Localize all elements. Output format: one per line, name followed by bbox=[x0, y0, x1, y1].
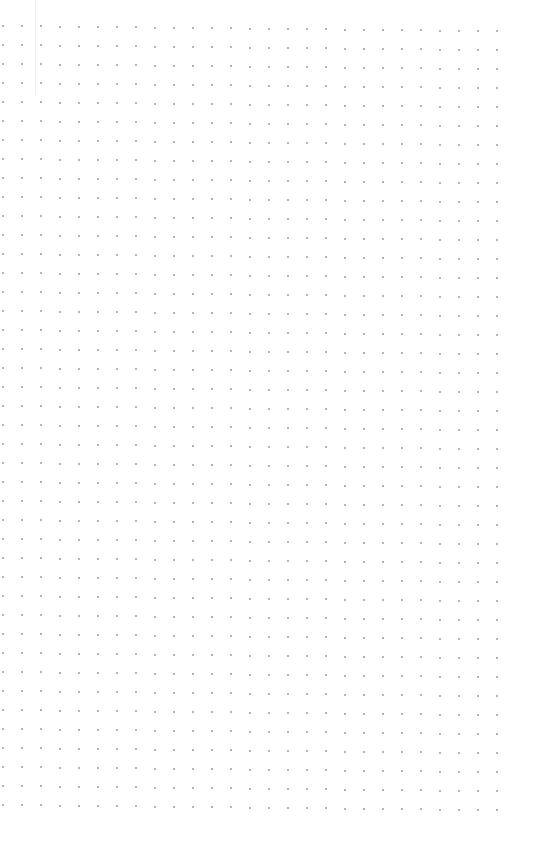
grid-dot bbox=[135, 482, 137, 484]
grid-dot bbox=[21, 139, 23, 141]
grid-dot bbox=[306, 731, 308, 733]
grid-dot bbox=[458, 752, 460, 754]
grid-dot bbox=[59, 634, 61, 636]
grid-dot bbox=[21, 804, 23, 806]
grid-dot bbox=[192, 331, 194, 333]
grid-dot bbox=[496, 334, 498, 336]
grid-dot bbox=[173, 635, 175, 637]
grid-dot bbox=[211, 559, 213, 561]
grid-dot bbox=[21, 500, 23, 502]
grid-dot bbox=[192, 635, 194, 637]
grid-dot bbox=[78, 121, 80, 123]
grid-dot bbox=[401, 333, 403, 335]
grid-dot bbox=[420, 124, 422, 126]
grid-dot bbox=[116, 216, 118, 218]
grid-dot bbox=[2, 500, 4, 502]
grid-dot bbox=[287, 370, 289, 372]
grid-dot bbox=[230, 749, 232, 751]
grid-dot bbox=[496, 106, 498, 108]
grid-dot bbox=[59, 64, 61, 66]
grid-dot bbox=[458, 163, 460, 165]
grid-dot bbox=[192, 312, 194, 314]
grid-dot bbox=[287, 313, 289, 315]
grid-dot bbox=[477, 239, 479, 241]
grid-dot bbox=[2, 196, 4, 198]
grid-dot bbox=[496, 68, 498, 70]
grid-dot bbox=[496, 676, 498, 678]
grid-dot bbox=[382, 143, 384, 145]
grid-dot bbox=[306, 85, 308, 87]
grid-dot bbox=[173, 217, 175, 219]
grid-dot bbox=[173, 27, 175, 29]
grid-dot bbox=[458, 771, 460, 773]
grid-dot bbox=[59, 710, 61, 712]
grid-dot bbox=[458, 562, 460, 564]
grid-dot bbox=[59, 653, 61, 655]
grid-dot bbox=[97, 406, 99, 408]
grid-dot bbox=[154, 407, 156, 409]
grid-dot bbox=[401, 656, 403, 658]
grid-dot bbox=[268, 674, 270, 676]
grid-dot bbox=[363, 580, 365, 582]
grid-dot bbox=[477, 752, 479, 754]
grid-dot bbox=[363, 808, 365, 810]
grid-dot bbox=[173, 616, 175, 618]
grid-dot bbox=[230, 27, 232, 29]
grid-dot bbox=[135, 558, 137, 560]
grid-dot bbox=[287, 636, 289, 638]
grid-dot bbox=[230, 673, 232, 675]
grid-dot bbox=[211, 331, 213, 333]
grid-dot bbox=[363, 466, 365, 468]
grid-dot bbox=[268, 104, 270, 106]
grid-dot bbox=[344, 390, 346, 392]
grid-dot bbox=[78, 520, 80, 522]
grid-dot bbox=[325, 351, 327, 353]
grid-dot bbox=[2, 671, 4, 673]
grid-dot bbox=[192, 749, 194, 751]
grid-dot bbox=[59, 596, 61, 598]
grid-dot bbox=[2, 386, 4, 388]
grid-dot bbox=[21, 158, 23, 160]
grid-dot bbox=[344, 523, 346, 525]
grid-dot bbox=[116, 691, 118, 693]
grid-dot bbox=[154, 787, 156, 789]
grid-dot bbox=[306, 636, 308, 638]
grid-dot bbox=[420, 67, 422, 69]
grid-dot bbox=[287, 522, 289, 524]
grid-dot bbox=[192, 103, 194, 105]
grid-dot bbox=[401, 409, 403, 411]
grid-dot bbox=[173, 464, 175, 466]
grid-dot bbox=[344, 314, 346, 316]
grid-dot bbox=[363, 637, 365, 639]
grid-dot bbox=[2, 25, 4, 27]
grid-dot bbox=[78, 672, 80, 674]
grid-dot bbox=[2, 785, 4, 787]
grid-dot bbox=[401, 105, 403, 107]
grid-dot bbox=[192, 521, 194, 523]
grid-dot bbox=[97, 539, 99, 541]
grid-dot bbox=[382, 808, 384, 810]
grid-dot bbox=[306, 446, 308, 448]
grid-dot bbox=[496, 87, 498, 89]
grid-dot bbox=[230, 198, 232, 200]
grid-dot bbox=[458, 239, 460, 241]
grid-dot bbox=[211, 673, 213, 675]
grid-dot bbox=[230, 578, 232, 580]
grid-dot bbox=[192, 597, 194, 599]
grid-dot bbox=[192, 141, 194, 143]
grid-dot bbox=[59, 45, 61, 47]
grid-dot bbox=[458, 201, 460, 203]
grid-dot bbox=[97, 615, 99, 617]
grid-dot bbox=[306, 256, 308, 258]
grid-dot bbox=[230, 445, 232, 447]
grid-dot bbox=[477, 486, 479, 488]
grid-dot bbox=[40, 728, 42, 730]
grid-dot bbox=[401, 390, 403, 392]
grid-dot bbox=[401, 789, 403, 791]
grid-dot bbox=[192, 692, 194, 694]
grid-dot bbox=[363, 694, 365, 696]
grid-dot bbox=[154, 274, 156, 276]
grid-dot bbox=[249, 465, 251, 467]
grid-dot bbox=[287, 199, 289, 201]
grid-dot bbox=[287, 560, 289, 562]
